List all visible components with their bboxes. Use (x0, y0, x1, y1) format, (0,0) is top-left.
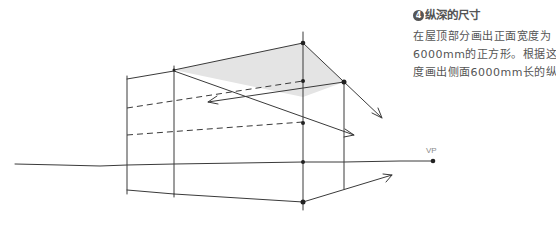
description-line: 6000mm的正方形。根据这个长 (413, 46, 556, 64)
bottom-edge-front (174, 194, 303, 202)
point-mid-lower (301, 121, 305, 125)
dashed-guide-lower (127, 122, 303, 135)
roof-square-fill (174, 43, 344, 97)
step-title: 纵深的尺寸 (425, 8, 480, 22)
point-left-top (173, 69, 176, 72)
point-roof-corner (342, 80, 347, 85)
description-line: 度画出侧面6000mm长的纵深。 (413, 64, 556, 82)
point-horizon (301, 160, 305, 164)
point-top (301, 41, 306, 46)
arrowhead (208, 96, 218, 104)
point-mid-upper (301, 79, 305, 83)
arrowhead (383, 174, 392, 182)
vanishing-point (431, 159, 436, 164)
step-heading: 4纵深的尺寸 (413, 6, 480, 22)
bottom-to-vp (303, 175, 392, 202)
step-number-badge: 4 (413, 10, 424, 21)
vanishing-point-label: VP (426, 146, 437, 155)
description-line: 在屋顶部分画出正面宽度为 (413, 28, 556, 46)
bottom-edge-left (127, 190, 174, 194)
top-edge-left (127, 71, 174, 79)
description: 在屋顶部分画出正面宽度为 6000mm的正方形。根据这个长 度画出侧面6000m… (413, 28, 556, 82)
horizon-line (15, 161, 433, 166)
point-bottom (301, 200, 306, 205)
